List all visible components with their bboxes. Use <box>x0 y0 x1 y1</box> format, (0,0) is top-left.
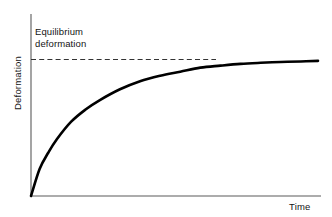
equilibrium-label-line-2: deformation <box>35 38 86 50</box>
y-axis-title: Deformation <box>11 0 25 110</box>
equilibrium-deformation-label: Equilibrium deformation <box>35 26 86 49</box>
equilibrium-label-line-1: Equilibrium <box>35 26 86 38</box>
chart-figure: Deformation Time Equilibrium deformation <box>0 0 332 217</box>
x-axis-title: Time <box>289 201 311 212</box>
deformation-curve <box>31 61 318 196</box>
